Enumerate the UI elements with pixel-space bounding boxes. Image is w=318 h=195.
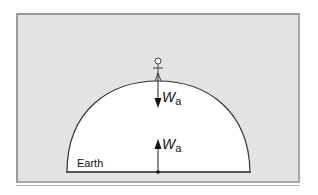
diagram-canvas xyxy=(0,0,318,195)
force-label-bottom: Wa xyxy=(162,136,181,154)
force-label-top: Wa xyxy=(162,89,181,107)
earth-label: Earth xyxy=(77,157,103,169)
